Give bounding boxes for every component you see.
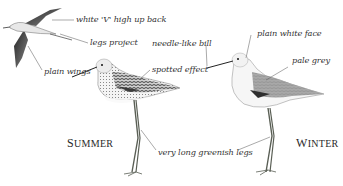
- annotation-long-greenish-legs: very long greenish legs: [158, 147, 253, 157]
- annotation-plain-wings: plain wings: [44, 66, 90, 76]
- annotation-legs-project: legs project: [90, 37, 138, 47]
- bird-illustration: white 'V' high up back legs project plai…: [0, 0, 343, 186]
- season-label-winter: WINTER: [296, 136, 339, 151]
- flying-bird-icon: [3, 8, 72, 68]
- season-label-summer: SUMMER: [67, 136, 113, 151]
- annotation-white-v: white 'V' high up back: [76, 14, 166, 24]
- annotation-needle-bill: needle-like bill: [152, 38, 212, 48]
- annotation-pale-grey: pale grey: [292, 55, 330, 65]
- annotation-plain-white-face: plain white face: [257, 28, 322, 38]
- annotation-spotted-effect: spotted effect: [152, 64, 208, 74]
- summer-bird-icon: [72, 59, 180, 176]
